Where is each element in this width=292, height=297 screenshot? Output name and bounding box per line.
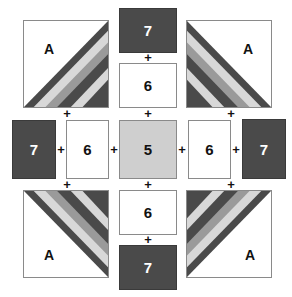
plus-icon: + xyxy=(143,235,153,245)
left-outer-block-7: 7 xyxy=(12,120,56,179)
plus-icon: + xyxy=(143,109,153,119)
top-inner-block-6: 6 xyxy=(119,63,177,108)
plus-icon: + xyxy=(109,145,119,155)
striped-triangle-icon xyxy=(24,191,108,277)
right-outer-block-7: 7 xyxy=(242,119,286,179)
plus-icon: + xyxy=(226,180,236,190)
plus-icon: + xyxy=(56,145,66,155)
bottom-outer-block-7: 7 xyxy=(119,245,177,290)
right-inner-block-6: 6 xyxy=(188,120,231,179)
corner-block-top-right: A xyxy=(186,20,272,108)
plus-icon: + xyxy=(226,109,236,119)
corner-label: A xyxy=(44,247,54,263)
top-outer-block-7: 7 xyxy=(119,8,177,53)
corner-label: A xyxy=(243,41,253,57)
plus-icon: + xyxy=(177,145,187,155)
plus-icon: + xyxy=(143,180,153,190)
plus-icon: + xyxy=(62,109,72,119)
corner-block-top-left: A xyxy=(23,20,109,108)
corner-block-bottom-right: A xyxy=(186,190,272,278)
corner-label: A xyxy=(245,247,255,263)
plus-icon: + xyxy=(62,180,72,190)
corner-label: A xyxy=(44,41,54,57)
bottom-inner-block-6: 6 xyxy=(119,190,177,235)
plus-icon: + xyxy=(231,145,241,155)
striped-triangle-icon xyxy=(187,191,271,277)
striped-triangle-icon xyxy=(24,21,108,107)
center-block-5: 5 xyxy=(119,120,177,179)
corner-block-bottom-left: A xyxy=(23,190,109,278)
plus-icon: + xyxy=(143,53,153,63)
striped-triangle-icon xyxy=(187,21,271,107)
left-inner-block-6: 6 xyxy=(66,120,109,179)
